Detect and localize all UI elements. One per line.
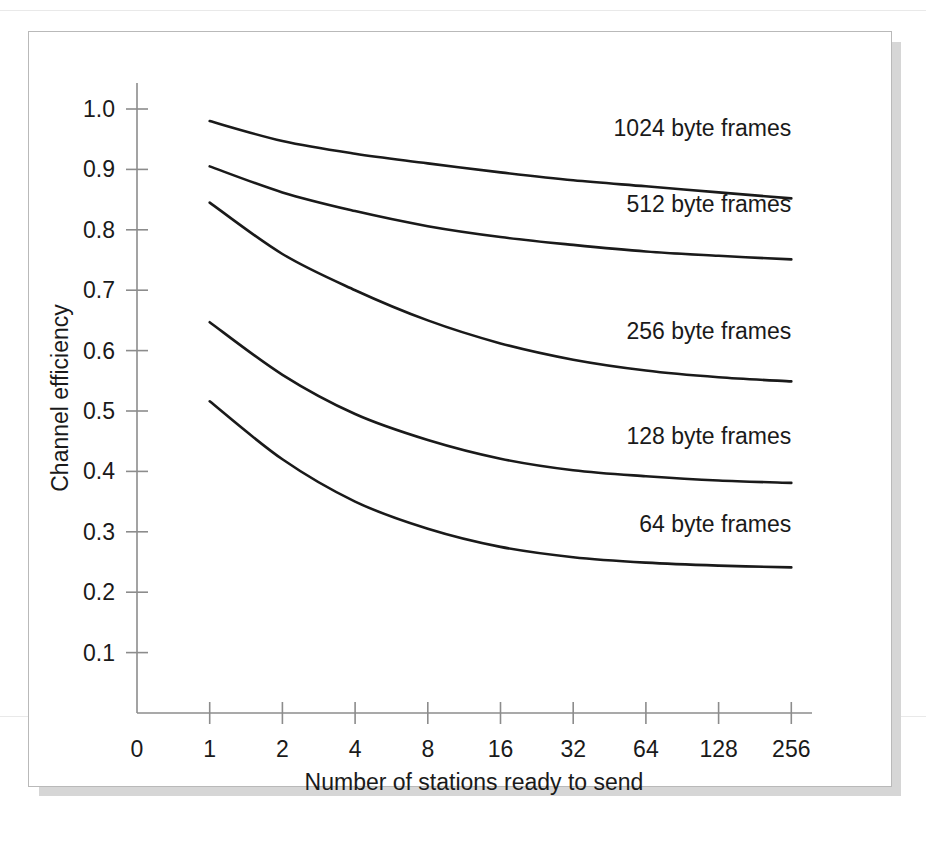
- x-axis-tick-labels: 01248163264128256: [131, 736, 811, 762]
- y-tick-label: 0.1: [83, 640, 115, 666]
- y-tick-label: 1.0: [83, 96, 115, 122]
- series-label-128-byte-frames: 128 byte frames: [626, 423, 791, 449]
- figure-page: 0.10.20.30.40.50.60.70.80.91.0 012481632…: [0, 0, 926, 849]
- curve-256-byte-frames: [210, 203, 792, 382]
- x-axis-title: Number of stations ready to send: [305, 769, 644, 795]
- x-tick-label: 1: [203, 736, 216, 762]
- series-curves: [210, 121, 792, 567]
- x-tick-label: 4: [349, 736, 362, 762]
- x-tick-label: 256: [772, 736, 810, 762]
- series-label-256-byte-frames: 256 byte frames: [626, 318, 791, 344]
- x-tick-label: 0: [131, 736, 144, 762]
- x-tick-label: 8: [421, 736, 434, 762]
- x-tick-label: 64: [633, 736, 659, 762]
- y-tick-label: 0.8: [83, 217, 115, 243]
- y-tick-label: 0.4: [83, 458, 115, 484]
- x-tick-label: 2: [276, 736, 289, 762]
- y-tick-label: 0.6: [83, 338, 115, 364]
- y-tick-label: 0.2: [83, 579, 115, 605]
- y-tick-label: 0.9: [83, 156, 115, 182]
- x-tick-label: 32: [560, 736, 586, 762]
- y-tick-label: 0.3: [83, 519, 115, 545]
- channel-efficiency-chart: 0.10.20.30.40.50.60.70.80.91.0 012481632…: [0, 0, 926, 849]
- series-label-512-byte-frames: 512 byte frames: [626, 191, 791, 217]
- curve-128-byte-frames: [210, 322, 792, 483]
- x-tick-label: 16: [488, 736, 514, 762]
- y-tick-label: 0.7: [83, 277, 115, 303]
- y-axis-tick-labels: 0.10.20.30.40.50.60.70.80.91.0: [83, 96, 115, 666]
- y-axis-title: Channel efficiency: [47, 304, 73, 492]
- series-label-1024-byte-frames: 1024 byte frames: [614, 115, 792, 141]
- series-label-64-byte-frames: 64 byte frames: [639, 511, 791, 537]
- series-inline-labels: 1024 byte frames512 byte frames256 byte …: [614, 115, 792, 537]
- y-tick-label: 0.5: [83, 398, 115, 424]
- x-tick-label: 128: [699, 736, 737, 762]
